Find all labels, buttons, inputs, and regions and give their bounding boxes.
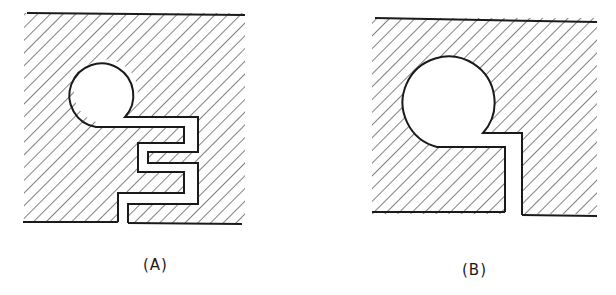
panel-b xyxy=(0,0,616,295)
panel-label-b: (B) xyxy=(462,261,487,279)
bottom-edge-right-b xyxy=(522,215,597,216)
hatched-solid-b xyxy=(0,0,616,295)
diagram-canvas xyxy=(0,0,616,295)
panel-label-a: (A) xyxy=(143,256,168,274)
